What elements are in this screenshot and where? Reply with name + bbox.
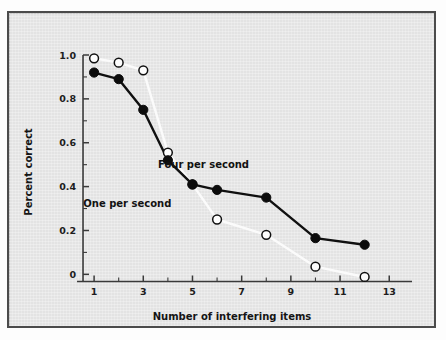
- annotation-label: One per second: [83, 198, 171, 209]
- data-point-four-per-second: [89, 68, 98, 77]
- x-tick-label: 9: [288, 286, 295, 297]
- x-tick-label: 13: [383, 286, 396, 297]
- data-point-four-per-second: [311, 234, 320, 243]
- y-tick-label: 1.0: [59, 50, 76, 61]
- x-tick-label: 3: [140, 286, 147, 297]
- y-axis-title: Percent correct: [23, 128, 34, 216]
- series-annotations: Four per secondOne per second: [83, 159, 249, 209]
- data-point-four-per-second: [114, 75, 123, 84]
- data-point-one-per-second: [139, 66, 148, 75]
- data-point-four-per-second: [360, 240, 369, 249]
- y-tick-label: 0.4: [59, 181, 76, 192]
- x-axis-title: Number of interfering items: [153, 311, 312, 322]
- y-tick-label: 0.8: [59, 93, 76, 104]
- data-point-four-per-second: [212, 185, 221, 194]
- data-point-one-per-second: [90, 54, 99, 63]
- data-point-four-per-second: [139, 105, 148, 114]
- line-chart: 13579111300.20.40.60.81.0 Four per secon…: [0, 0, 446, 340]
- x-tick-label: 1: [91, 286, 98, 297]
- y-tick-label: 0.6: [59, 137, 76, 148]
- x-tick-label: 5: [189, 286, 196, 297]
- x-tick-label: 11: [333, 286, 346, 297]
- data-point-one-per-second: [311, 262, 320, 271]
- y-tick-label: 0.2: [59, 225, 76, 236]
- data-point-one-per-second: [360, 273, 369, 282]
- data-point-one-per-second: [114, 58, 123, 67]
- data-point-one-per-second: [213, 215, 222, 224]
- data-point-one-per-second: [262, 230, 271, 239]
- figure-container: 13579111300.20.40.60.81.0 Four per secon…: [0, 0, 446, 340]
- y-tick-label: 0: [69, 269, 76, 280]
- annotation-label: Four per second: [158, 159, 249, 170]
- data-point-four-per-second: [262, 193, 271, 202]
- axis-tick-labels: 13579111300.20.40.60.81.0: [59, 50, 396, 297]
- data-point-four-per-second: [188, 180, 197, 189]
- x-tick-label: 7: [238, 286, 245, 297]
